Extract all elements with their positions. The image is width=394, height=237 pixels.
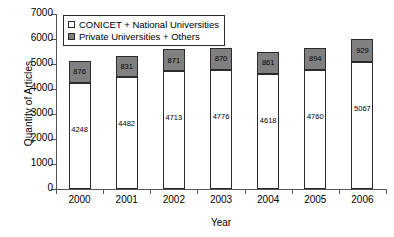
y-tick-label: 0 — [47, 182, 53, 193]
bar-value-label: 831 — [120, 63, 133, 71]
x-tick-label: 2005 — [292, 194, 338, 205]
y-tick-label: 6000 — [31, 32, 53, 43]
bar-value-label: 4482 — [118, 120, 135, 128]
bar-value-label: 871 — [168, 57, 181, 65]
legend: CONICET + National Universities Private … — [63, 15, 225, 46]
y-tick-label: 3000 — [31, 107, 53, 118]
bar-value-label: 876 — [73, 68, 86, 76]
x-tick-label: 2003 — [198, 194, 244, 205]
bar-segment-conicet-national: 4760 — [304, 70, 326, 189]
x-tick-mark — [386, 189, 387, 194]
bar-segment-conicet-national: 4482 — [116, 77, 138, 189]
bar-value-label: 894 — [309, 55, 322, 63]
bar-segment-conicet-national: 4776 — [210, 70, 232, 189]
bar-value-label: 4248 — [71, 126, 88, 134]
bar-segment-private-others: 876 — [69, 61, 91, 83]
bar-value-label: 4713 — [166, 114, 183, 122]
white-square-icon — [68, 21, 75, 28]
bar-segment-conicet-national: 4248 — [69, 83, 91, 189]
bar-segment-private-others: 929 — [351, 39, 373, 62]
legend-item-label: Private Universities + Others — [79, 31, 200, 42]
y-tick-label: 5000 — [31, 57, 53, 68]
bar-group: 5067929 — [351, 14, 373, 189]
legend-item-label: CONICET + National Universities — [79, 19, 219, 30]
x-tick-label: 2001 — [104, 194, 150, 205]
bar-segment-private-others: 861 — [257, 52, 279, 74]
bar-group: 4760894 — [304, 14, 326, 189]
y-axis-line — [56, 14, 57, 190]
bar-value-label: 929 — [356, 47, 369, 55]
x-tick-label: 2002 — [151, 194, 197, 205]
x-axis-title: Year — [56, 217, 386, 228]
bar-value-label: 5067 — [354, 105, 371, 113]
bar-value-label: 4760 — [307, 113, 324, 121]
bar-segment-private-others: 871 — [163, 49, 185, 71]
x-axis-line — [56, 189, 386, 190]
bar-segment-conicet-national: 4618 — [257, 74, 279, 189]
bar-segment-conicet-national: 5067 — [351, 62, 373, 189]
bar-segment-conicet-national: 4713 — [163, 71, 185, 189]
bar-value-label: 4618 — [260, 117, 277, 125]
y-axis-title: Quantity of Articles — [23, 29, 34, 179]
y-tick-label: 2000 — [31, 132, 53, 143]
bar-value-label: 861 — [262, 59, 275, 67]
gray-square-icon — [68, 33, 75, 40]
y-tick-label: 4000 — [31, 82, 53, 93]
bar-segment-private-others: 894 — [304, 48, 326, 70]
y-tick-label: 1000 — [31, 157, 53, 168]
legend-item: Private Universities + Others — [68, 30, 219, 42]
bar-segment-private-others: 831 — [116, 56, 138, 77]
bar-chart: Quantity of Articles Year 01000200030004… — [0, 0, 394, 237]
x-tick-label: 2000 — [57, 194, 103, 205]
bar-value-label: 4776 — [213, 113, 230, 121]
x-tick-label: 2004 — [245, 194, 291, 205]
x-tick-label: 2006 — [339, 194, 385, 205]
bar-group: 4618861 — [257, 14, 279, 189]
y-tick-label: 7000 — [31, 7, 53, 18]
bar-value-label: 870 — [215, 55, 228, 63]
bar-segment-private-others: 870 — [210, 48, 232, 70]
legend-item: CONICET + National Universities — [68, 18, 219, 30]
